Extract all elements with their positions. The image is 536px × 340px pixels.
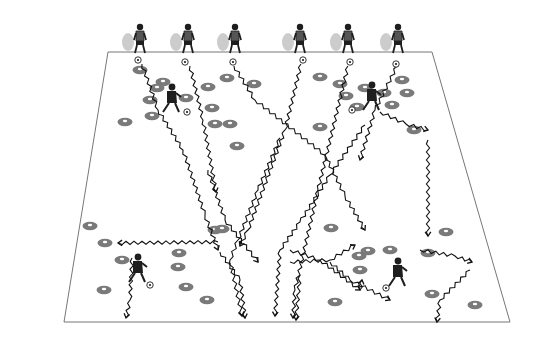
cone-top (338, 82, 342, 84)
dribbler-body (167, 91, 177, 103)
soccer-ball-patch (385, 287, 387, 289)
cone-top (184, 96, 188, 98)
waiting-player-icon-body (184, 31, 192, 41)
cone-top (400, 78, 404, 80)
soccer-ball-patch (349, 61, 351, 63)
waiting-player-icon-shorts (184, 41, 192, 45)
cone-top (318, 75, 322, 77)
waiting-player-icon-shorts (344, 41, 352, 45)
dribbler-body (133, 261, 143, 273)
waiting-player-icon-shorts (296, 41, 304, 45)
cone-top (120, 258, 124, 260)
cone-top (213, 122, 217, 124)
dribbler-player-icon (169, 84, 176, 91)
cone-top (102, 288, 106, 290)
soccer-ball-patch (184, 61, 186, 63)
soccer-ball-patch (302, 59, 304, 61)
dribbler-body (393, 265, 403, 277)
dribbler-body (367, 89, 377, 101)
player-shadow (282, 33, 294, 51)
waiting-player-icon-body (394, 31, 402, 41)
waiting-player-icon-body (136, 31, 144, 41)
cone-top (252, 82, 256, 84)
player-shadow (122, 33, 134, 51)
cone-top (206, 85, 210, 87)
player-shadow (330, 33, 342, 51)
cone-top (473, 303, 477, 305)
cone-top (366, 249, 370, 251)
drill-canvas (0, 0, 536, 340)
cone-top (88, 224, 92, 226)
cone-top (177, 251, 181, 253)
soccer-ball-patch (395, 63, 397, 65)
waiting-player-icon-head (297, 24, 303, 30)
cone-top (176, 265, 180, 267)
cone-top (148, 98, 152, 100)
cone-top (444, 230, 448, 232)
cone-top (205, 298, 209, 300)
waiting-player-icon-body (296, 31, 304, 41)
waiting-player-icon-body (344, 31, 352, 41)
cone-top (123, 120, 127, 122)
player-shadow (380, 33, 392, 51)
cone-top (150, 114, 154, 116)
soccer-ball-patch (232, 61, 234, 63)
cone-top (235, 144, 239, 146)
field-boundary (64, 52, 510, 322)
cone-top (228, 122, 232, 124)
soccer-ball-patch (149, 284, 151, 286)
cone-top (318, 125, 322, 127)
player-shadow (170, 33, 182, 51)
cone-top (333, 300, 337, 302)
cone-top (184, 285, 188, 287)
waiting-player-icon-shorts (136, 41, 144, 45)
cone-top (220, 227, 224, 229)
waiting-player-icon-head (232, 24, 238, 30)
soccer-ball-patch (186, 111, 188, 113)
cone-top (430, 292, 434, 294)
cone-top (388, 248, 392, 250)
waiting-player-icon-head (185, 24, 191, 30)
cone-top (155, 86, 159, 88)
dribbler-player-icon (369, 82, 376, 89)
cone-top (412, 128, 416, 130)
cone-top (329, 226, 333, 228)
cone-top (344, 94, 348, 96)
waiting-player-icon-head (395, 24, 401, 30)
cone-top (355, 105, 359, 107)
dribbler-player-icon (135, 254, 142, 261)
waiting-player-icon-head (345, 24, 351, 30)
cone-top (357, 254, 361, 256)
cone-top (358, 268, 362, 270)
cone-top (225, 76, 229, 78)
waiting-player-icon-shorts (231, 41, 239, 45)
drill-diagram (0, 0, 536, 340)
cone-top (103, 241, 107, 243)
cone-top (405, 91, 409, 93)
cone-top (390, 103, 394, 105)
dribbler-player-icon (395, 258, 402, 265)
waiting-player-icon-head (137, 24, 143, 30)
cone-top (210, 106, 214, 108)
soccer-ball-patch (351, 109, 353, 111)
soccer-ball-patch (137, 59, 139, 61)
cone-top (363, 86, 367, 88)
player-shadow (217, 33, 229, 51)
waiting-player-icon-body (231, 31, 239, 41)
waiting-player-icon-shorts (394, 41, 402, 45)
cone-top (161, 80, 165, 82)
